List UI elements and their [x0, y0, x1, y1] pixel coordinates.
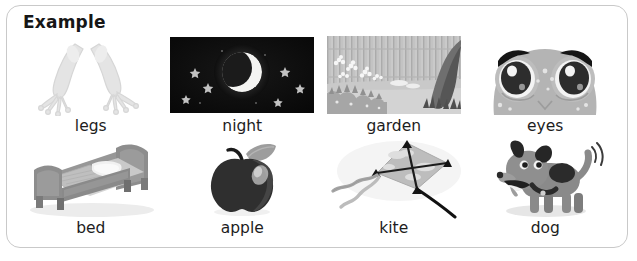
cell-label: dog: [531, 221, 560, 237]
grid-cell-bed: bed: [15, 138, 167, 242]
example-card: Example: [6, 5, 628, 248]
grid-cell-kite: kite: [318, 138, 470, 242]
grid-cell-legs: legs: [15, 34, 167, 138]
picture-word-grid: legs: [15, 34, 621, 242]
page-title: Example: [23, 12, 106, 32]
garden-scene-photo: [318, 34, 470, 116]
apple-illustration: [167, 138, 319, 218]
grid-cell-apple: apple: [167, 138, 319, 242]
cell-label: eyes: [527, 119, 563, 135]
frog-eyes-illustration: [470, 34, 622, 116]
frog-legs-illustration: [15, 34, 167, 116]
dog-illustration: [470, 138, 622, 218]
grid-cell-night: night: [167, 34, 319, 138]
grid-cell-garden: garden: [318, 34, 470, 138]
night-sky-photo: [167, 34, 319, 116]
cell-label: legs: [75, 119, 107, 135]
cell-label: night: [222, 119, 262, 135]
cell-label: bed: [76, 221, 105, 237]
cell-label: garden: [366, 119, 421, 135]
cell-label: apple: [221, 221, 264, 237]
cell-label: kite: [379, 221, 408, 237]
bed-illustration: [15, 138, 167, 218]
grid-cell-dog: dog: [470, 138, 622, 242]
kite-illustration: [318, 138, 470, 218]
grid-cell-eyes: eyes: [470, 34, 622, 138]
